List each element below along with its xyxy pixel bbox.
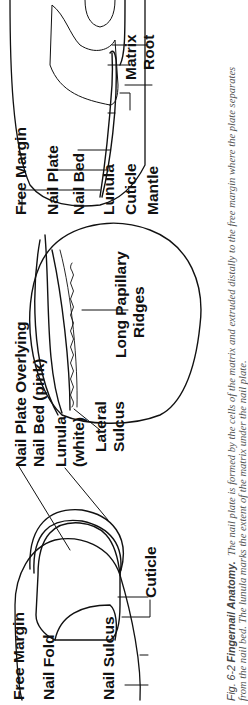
- label-free-margin-top: Free Margin: [10, 612, 27, 700]
- label-nail-fold: Nail Fold: [40, 635, 57, 700]
- label-long-papillary: Long Papillary: [112, 251, 129, 358]
- figure-caption-line-2: from the nail bed. The lunula marks the …: [237, 360, 248, 701]
- caption-text-2: from the nail bed. The lunula marks the …: [237, 360, 248, 701]
- figure-canvas: Free Margin Nail Fold Nail Sulcus Cuticl…: [0, 0, 248, 705]
- label-lunula-white: (white): [70, 417, 87, 467]
- label-cuticle-top: Cuticle: [142, 546, 159, 598]
- top-view-drawing: [8, 465, 150, 700]
- label-lateral: Lateral: [92, 401, 109, 452]
- figure-caption-line-1: Fig. 6-2 Fingernail Anatomy. The nail pl…: [226, 67, 237, 701]
- label-free-margin-side: Free Margin: [12, 127, 29, 215]
- caption-text-1: The nail plate is formed by the cells of…: [226, 67, 237, 556]
- label-lunula-top: Lunula: [52, 416, 69, 467]
- figure-title: Fingernail Anatomy.: [225, 561, 237, 662]
- label-nail-sulcus: Nail Sulcus: [100, 616, 117, 700]
- label-nail-bed: Nail Bed: [70, 153, 87, 215]
- label-nail-plate: Nail Plate: [44, 145, 61, 215]
- label-matrix: Matrix: [122, 34, 139, 80]
- label-cuticle-side: Cuticle: [122, 163, 139, 215]
- label-nail-bed-pink: Nail Bed (pink): [30, 358, 47, 467]
- label-mantle: Mantle: [144, 166, 161, 215]
- label-root: Root: [140, 35, 157, 70]
- label-nail-plate-overlying: Nail Plate Overlying: [12, 321, 29, 467]
- label-sulcus: Sulcus: [110, 401, 127, 452]
- label-ridges: Ridges: [130, 286, 147, 338]
- label-lunula-side: Lunula: [100, 164, 117, 215]
- figure-number: Fig. 6-2: [225, 665, 237, 701]
